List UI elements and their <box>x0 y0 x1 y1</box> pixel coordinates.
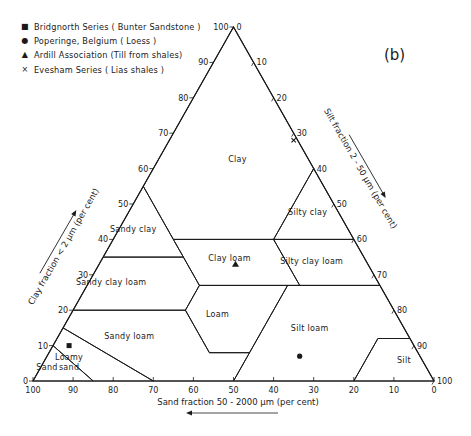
clay-axis-title: Clay fraction < 2 μm (per cent) <box>26 186 101 306</box>
silt-tick <box>252 62 254 66</box>
legend-label: Bridgnorth Series ( Bunter Sandstone ) <box>34 20 201 34</box>
legend-label: Evesham Series ( Lias shales ) <box>34 63 164 77</box>
silt-tick-label: 30 <box>297 129 307 138</box>
silt-tick-label: 70 <box>377 271 387 280</box>
region-label: Loam <box>206 310 229 319</box>
legend-label: Ardill Association (Till from shales) <box>34 48 182 62</box>
region-sandy-loam <box>63 310 249 381</box>
sand-axis-title: Sand fraction 50 - 2000 μm (per cent) <box>157 397 319 407</box>
silt-tick <box>392 310 394 314</box>
sand-tick-label: 30 <box>309 386 319 395</box>
region-sandy-clay <box>103 186 183 257</box>
panel-label: (b) <box>384 46 405 64</box>
sand-tick-label: 0 <box>431 386 436 395</box>
silt-tick-label: 10 <box>257 58 267 67</box>
silt-tick-label: 100 <box>437 377 452 386</box>
silt-tick-label: 20 <box>277 94 287 103</box>
region-label: Sandy clay loam <box>76 278 147 287</box>
region-label: Silty clay <box>288 208 327 217</box>
region-loam <box>185 285 287 352</box>
region-label: Sandy clay <box>110 225 157 234</box>
silt-tick <box>332 204 334 208</box>
region-label: sand <box>59 363 79 372</box>
clay-tick-label: 100 <box>213 23 228 32</box>
sand-tick-label: 70 <box>148 386 158 395</box>
silt-tick-label: 90 <box>417 342 427 351</box>
silt-tick-label: 80 <box>397 306 407 315</box>
clay-tick-label: 80 <box>178 94 188 103</box>
legend-item-poperinge: ● Poperinge, Belgium ( Loess ) <box>16 34 201 48</box>
clay-tick-label: 40 <box>98 235 108 244</box>
sand-tick-label: 100 <box>25 386 40 395</box>
legend: ■ Bridgnorth Series ( Bunter Sandstone )… <box>16 20 201 77</box>
arrowhead-icon <box>186 411 192 416</box>
silt-axis-title: Silt fraction 2 - 50 μm (per cent) <box>322 107 399 231</box>
legend-item-bridgnorth: ■ Bridgnorth Series ( Bunter Sandstone ) <box>16 20 201 34</box>
square-marker-icon: ■ <box>16 20 34 34</box>
region-label: Clay loam <box>208 254 251 263</box>
legend-label: Poperinge, Belgium ( Loess ) <box>34 34 157 48</box>
silt-tick <box>272 98 274 102</box>
silt-tick-label: 50 <box>337 200 347 209</box>
clay-tick-label: 10 <box>38 342 48 351</box>
silt-tick <box>352 239 354 243</box>
square-marker-icon <box>67 343 72 348</box>
legend-item-evesham: × Evesham Series ( Lias shales ) <box>16 63 201 77</box>
silt-tick <box>372 275 374 279</box>
silt-tick <box>292 133 294 137</box>
triangle-marker-icon: ▲ <box>16 48 34 62</box>
clay-tick-label: 60 <box>138 165 148 174</box>
region-label: Clay <box>228 155 247 164</box>
region-label: Silt <box>397 356 411 365</box>
sand-tick-label: 40 <box>269 386 279 395</box>
silt-tick-label: 0 <box>237 23 242 32</box>
sand-tick-label: 20 <box>349 386 359 395</box>
data-points <box>67 138 303 359</box>
sand-tick-label: 10 <box>389 386 399 395</box>
sand-tick-label: 60 <box>188 386 198 395</box>
silt-tick <box>312 169 314 173</box>
region-label: Sand <box>36 363 57 372</box>
region-label: Sandy loam <box>104 332 154 341</box>
legend-item-ardill: ▲ Ardill Association (Till from shales) <box>16 48 201 62</box>
silt-tick-label: 60 <box>357 235 367 244</box>
clay-tick-label: 50 <box>118 200 128 209</box>
circle-marker-icon <box>297 354 302 359</box>
clay-tick-label: 0 <box>23 377 28 386</box>
region-label: Silt loam <box>291 324 329 333</box>
circle-marker-icon: ● <box>16 34 34 48</box>
sand-tick-label: 90 <box>68 386 78 395</box>
clay-tick-label: 70 <box>158 129 168 138</box>
clay-tick-label: 20 <box>58 306 68 315</box>
silt-tick-label: 40 <box>317 165 327 174</box>
sand-tick-label: 50 <box>228 386 238 395</box>
region-label: Silty clay loam <box>280 257 343 266</box>
sand-tick-label: 80 <box>108 386 118 395</box>
cross-marker-icon <box>291 138 295 142</box>
cross-marker-icon: × <box>16 63 34 77</box>
silt-tick <box>412 346 414 350</box>
region-label: Loamy <box>55 353 83 362</box>
